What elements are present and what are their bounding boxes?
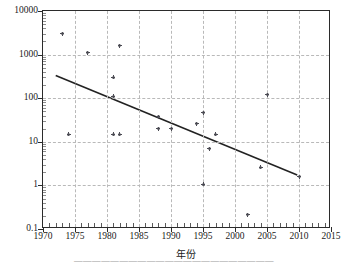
x-axis-minor-tick [261,223,262,227]
data-point [86,51,90,55]
gridline-horizontal [43,98,329,99]
y-axis-minor-tick [43,18,46,19]
x-axis-minor-tick [133,223,134,227]
gridline-vertical [171,11,172,227]
data-point-core [118,133,121,136]
y-axis-minor-tick [43,111,46,112]
x-axis-minor-tick [248,223,249,227]
x-axis-minor-tick [62,223,63,227]
y-axis-minor-tick [43,105,46,106]
y-axis-minor-tick [43,108,46,109]
x-axis-tick-label: 2010 [290,232,309,242]
gridline-vertical [299,11,300,227]
data-point [297,175,301,179]
data-point-core [195,122,198,125]
y-axis-tick-label: 10000 [14,6,38,16]
x-axis-minor-tick [229,223,230,227]
y-axis-minor-tick [43,203,46,204]
x-axis-minor-tick [312,223,313,227]
x-axis-tick-label: 1970 [34,232,53,242]
data-point-core [266,93,269,96]
x-axis-tick-label: 2015 [322,232,341,242]
y-axis-minor-tick [43,216,46,217]
y-axis-minor-tick [43,34,46,35]
y-axis-tick-label: 100 [24,93,38,103]
x-axis-minor-tick [69,223,70,227]
chart-figure: 甲烷抽采量(1012m3) 0.111010010001000019701975… [0,0,348,266]
y-axis-tick [38,55,43,56]
y-axis-minor-tick [43,121,46,122]
data-point-core [298,175,301,178]
caption-text: —————————————————————— [74,258,274,265]
y-axis-minor-tick [43,24,46,25]
data-point [201,182,205,186]
x-axis-minor-tick [222,223,223,227]
gridline-vertical [235,11,236,227]
data-point [60,32,64,36]
x-axis-minor-tick [177,223,178,227]
x-axis-minor-tick [254,223,255,227]
gridline-horizontal [43,185,329,186]
data-point [111,94,115,98]
data-point-core [259,166,262,169]
gridline-vertical [203,11,204,227]
y-axis-tick-label: 1 [33,181,38,191]
y-axis-minor-tick [43,77,46,78]
x-axis-minor-tick [190,223,191,227]
x-axis-minor-tick [145,223,146,227]
y-axis-minor-tick [43,41,46,42]
x-axis-minor-tick [56,223,57,227]
y-axis-minor-tick [43,61,46,62]
y-axis-minor-tick [43,187,46,188]
y-axis-minor-tick [43,21,46,22]
x-axis-minor-tick [197,223,198,227]
y-axis-tick [38,11,43,12]
x-axis-tick-label: 2000 [226,232,245,242]
y-axis-minor-tick [43,208,46,209]
x-axis-minor-tick [120,223,121,227]
y-axis-minor-tick [43,59,46,60]
data-point [246,213,250,217]
y-axis-minor-tick [43,199,46,200]
data-point [207,147,211,151]
x-axis-tick-label: 1975 [66,232,85,242]
data-point [111,132,115,136]
y-axis-tick [38,142,43,143]
x-axis-minor-tick [94,223,95,227]
data-point [259,165,263,169]
data-point-core [118,44,121,47]
gridline-vertical [267,11,268,227]
x-axis-minor-tick [113,223,114,227]
x-axis-minor-tick [126,223,127,227]
y-axis-minor-tick [43,64,46,65]
gridline-vertical [139,11,140,227]
data-point-core [112,133,115,136]
x-axis-minor-tick [88,223,89,227]
data-point [169,127,173,131]
x-axis-minor-tick [152,223,153,227]
x-axis-minor-tick [184,223,185,227]
x-axis-minor-tick [241,223,242,227]
data-point-core [61,32,64,35]
y-axis-minor-tick [43,146,46,147]
y-axis-minor-tick [43,116,46,117]
data-point-core [112,95,115,98]
data-point [67,132,71,136]
gridline-vertical [75,11,76,227]
trendline-segment [56,76,298,175]
x-axis-minor-tick [286,223,287,227]
y-axis-minor-tick [43,100,46,101]
x-axis-minor-tick [293,223,294,227]
data-point-core [170,127,173,130]
x-axis-minor-tick [325,223,326,227]
x-axis-minor-tick [165,223,166,227]
x-axis-minor-tick [305,223,306,227]
y-axis-tick-label: 10 [29,137,39,147]
y-axis-tick-label: 1000 [19,50,38,60]
gridline-vertical [107,11,108,227]
y-axis-minor-tick [43,129,46,130]
y-axis-minor-tick [43,190,46,191]
y-axis-minor-tick [43,165,46,166]
gridline-horizontal [43,142,329,143]
y-axis-minor-tick [43,159,46,160]
